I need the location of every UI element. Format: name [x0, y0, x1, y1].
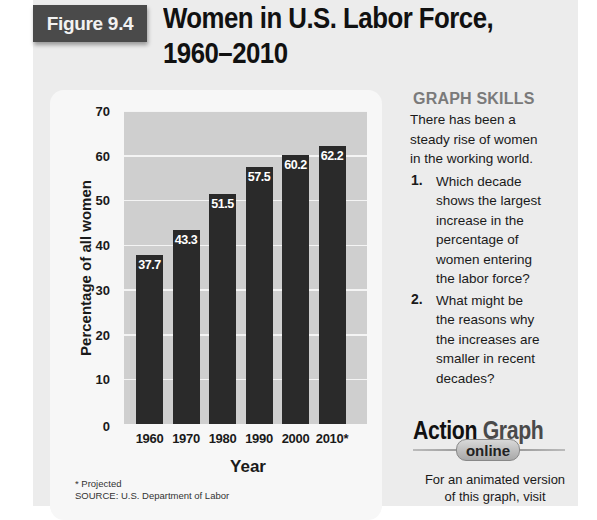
plot-area: 37.743.351.557.560.262.2 — [124, 111, 367, 424]
gridline — [124, 111, 367, 113]
bar-1980: 51.5 — [209, 194, 236, 424]
bar-1990: 57.5 — [246, 167, 273, 424]
footnote-source: SOURCE: U.S. Department of Labor — [75, 490, 229, 501]
question-text-line: increase in the — [436, 211, 576, 231]
x-tick-label: 1960 — [130, 431, 170, 446]
bar-value-label: 60.2 — [282, 158, 309, 172]
y-tick-label: 10 — [80, 372, 110, 387]
question-text-line: Which decade — [436, 172, 576, 192]
bar-1970: 43.3 — [173, 230, 200, 424]
x-axis-label: Year — [208, 457, 288, 477]
y-tick-label: 70 — [80, 104, 110, 119]
question-text-line: women entering — [436, 250, 576, 270]
x-tick-label: 1980 — [203, 431, 243, 446]
graph-skills-intro-line: steady rise of women — [410, 130, 538, 149]
bar-value-label: 62.2 — [319, 149, 346, 163]
figure-title-line1: Women in U.S. Labor Force, — [163, 0, 507, 35]
question-text-line: the reasons why — [436, 310, 576, 330]
y-tick-label: 50 — [80, 193, 110, 208]
figure-title: Women in U.S. Labor Force, 1960–2010 — [163, 0, 507, 70]
question-text-line: the labor force? — [436, 269, 576, 289]
question-text-line: decades? — [436, 369, 576, 389]
question-text-line: the increases are — [436, 330, 576, 350]
bar-value-label: 51.5 — [209, 197, 236, 211]
question-text-line: shows the largest — [436, 191, 576, 211]
figure-badge: Figure 9.4 — [33, 5, 147, 42]
bar-value-label: 57.5 — [246, 170, 273, 184]
graph-skills-heading: GRAPH SKILLS — [413, 90, 535, 108]
y-tick-label: 40 — [80, 238, 110, 253]
graph-skills-intro-line: in the working world. — [410, 149, 533, 168]
y-tick-label: 0 — [80, 419, 110, 434]
figure-title-line2: 1960–2010 — [163, 35, 507, 70]
visit-text-line1: For an animated version — [410, 472, 580, 487]
online-badge[interactable]: online — [456, 439, 520, 461]
bar-value-label: 37.7 — [136, 258, 163, 272]
footnote-projected: * Projected — [75, 478, 121, 489]
question-text-line: smaller in recent — [436, 349, 576, 369]
bar-2000: 60.2 — [282, 155, 309, 424]
question-number: 2. — [411, 291, 423, 307]
y-tick-label: 20 — [80, 327, 110, 342]
question-text-line: percentage of — [436, 230, 576, 250]
bar-value-label: 43.3 — [173, 233, 200, 247]
graph-skills-intro-line: There has been a — [410, 110, 516, 129]
question-text-line: What might be — [436, 291, 576, 311]
x-tick-label: 1970 — [166, 431, 206, 446]
visit-text-line2: of this graph, visit — [410, 489, 580, 504]
bar-2010: 62.2 — [319, 146, 346, 424]
x-tick-label: 2000 — [276, 431, 316, 446]
bar-1960: 37.7 — [136, 255, 163, 424]
x-tick-label: 2010* — [312, 431, 352, 446]
y-tick-label: 30 — [80, 282, 110, 297]
y-tick-label: 60 — [80, 148, 110, 163]
question-number: 1. — [411, 172, 423, 188]
x-tick-label: 1990 — [239, 431, 279, 446]
